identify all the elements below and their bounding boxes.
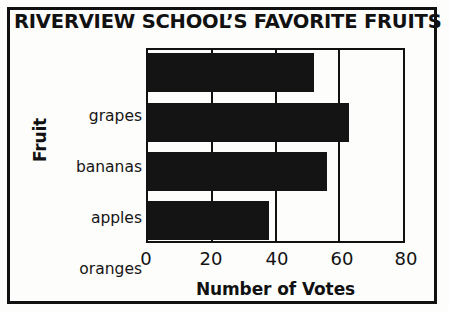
x-tick-label-0: 0 (121, 248, 171, 269)
x-tick-label-40: 40 (252, 248, 302, 269)
x-tick-label-60: 60 (317, 248, 367, 269)
x-axis-title: Number of Votes (146, 279, 405, 299)
y-category-label-grapes: grapes (12, 107, 142, 125)
bar-oranges (148, 201, 269, 240)
y-axis-category-labels: grapes bananas apples oranges (8, 48, 142, 243)
bar-chart-figure: RIVERVIEW SCHOOL’S FAVORITE FRUITS Fruit… (0, 0, 449, 311)
plot-area (146, 48, 405, 243)
y-category-label-bananas: bananas (12, 158, 142, 176)
x-tick-label-80: 80 (381, 248, 431, 269)
x-tick-label-20: 20 (186, 248, 236, 269)
y-category-label-apples: apples (12, 209, 142, 227)
bar-apples (148, 152, 327, 191)
bar-grapes (148, 53, 314, 92)
bars-layer (148, 50, 403, 241)
bar-bananas (148, 103, 349, 142)
x-axis-tick-labels: 0 20 40 60 80 (0, 248, 449, 272)
chart-title: RIVERVIEW SCHOOL’S FAVORITE FRUITS (14, 10, 430, 34)
